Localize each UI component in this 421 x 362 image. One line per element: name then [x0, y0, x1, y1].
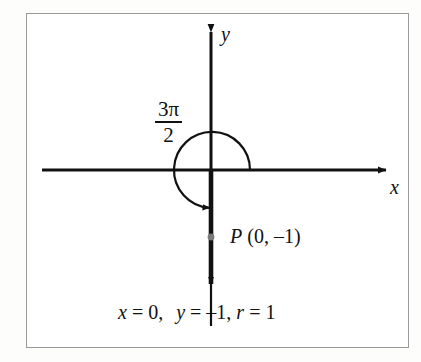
equation-y-var: y — [176, 301, 185, 323]
angle-fraction: 3π 2 — [155, 99, 182, 146]
equation-line: x = 0, y = –1, r = 1 — [118, 302, 275, 322]
equation-x-value: = 0, — [132, 301, 163, 323]
trig-angle-figure: y x 3π 2 P(0, –1) x = 0, y = –1, r = 1 — [0, 0, 421, 362]
x-axis-label: x — [390, 177, 399, 197]
point-p-marker — [208, 234, 215, 241]
point-p-name: P — [230, 225, 247, 247]
equation-x-var: x — [118, 301, 127, 323]
angle-measure-label: 3π 2 — [155, 99, 182, 146]
y-axis-label: y — [221, 24, 230, 44]
point-p-label: P(0, –1) — [230, 226, 301, 246]
angle-denominator: 2 — [155, 123, 182, 146]
equation-r-var: r — [236, 301, 244, 323]
point-p-coordinates: (0, –1) — [247, 225, 300, 247]
equation-r-value: = 1 — [249, 301, 275, 323]
equation-y-value: = –1, — [190, 301, 231, 323]
angle-numerator: 3π — [155, 99, 182, 123]
